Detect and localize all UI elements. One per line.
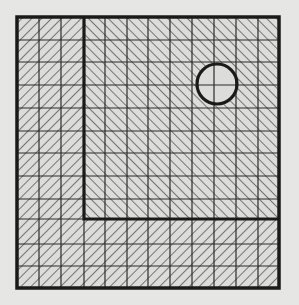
inner-region-hatching	[84, 17, 279, 219]
hatched-grid-diagram	[0, 0, 299, 305]
